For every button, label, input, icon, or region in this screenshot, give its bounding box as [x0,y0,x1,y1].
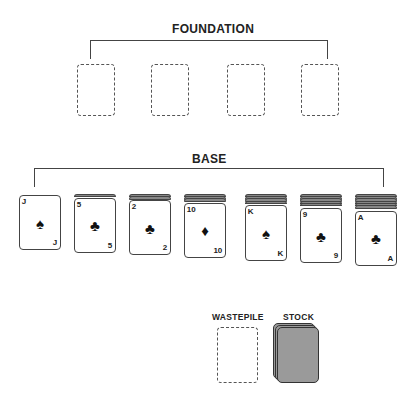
rank-bottom-right: 5 [108,241,112,250]
face-up-card[interactable]: J♠J [19,195,62,250]
rank-top-left: K [248,207,254,216]
rank-bottom-right: A [388,254,394,263]
wastepile-slot[interactable] [217,327,258,383]
rank-bottom-right: 2 [163,243,167,252]
foundation-label: FOUNDATION [172,22,254,36]
wastepile-label: WASTEPILE [212,312,264,322]
rank-top-left: A [358,213,364,222]
clubs-suit-icon: ♣ [371,230,381,247]
rank-bottom-right: J [53,238,57,247]
rank-top-left: 2 [132,202,136,211]
rank-top-left: J [22,197,26,206]
card-back [184,198,227,202]
card-back [245,201,288,205]
base-pile-6[interactable]: 9♣9 [301,195,341,262]
clubs-suit-icon: ♣ [90,217,100,234]
spades-suit-icon: ♠ [262,225,270,242]
foundation-bracket [90,40,328,59]
rank-bottom-right: K [278,249,284,258]
base-pile-1[interactable]: J♠J [20,195,60,249]
card-back [129,196,172,200]
foundation-slot-1[interactable] [77,64,115,116]
base-bracket [34,168,384,187]
face-up-card[interactable]: 9♣9 [300,208,343,263]
card-back [300,203,343,207]
rank-top-left: 10 [187,205,196,214]
rank-top-left: 9 [303,210,307,219]
face-down-cards [129,194,172,199]
base-label: BASE [192,152,227,166]
face-up-card[interactable]: 5♣5 [74,198,117,253]
stock-pile[interactable] [273,323,323,387]
foundation-slot-4[interactable] [301,64,339,116]
face-down-cards [300,194,343,206]
clubs-suit-icon: ♣ [316,227,326,244]
clubs-suit-icon: ♣ [145,219,155,236]
rank-bottom-right: 9 [334,251,338,260]
stock-label: STOCK [283,312,314,322]
face-down-cards [245,194,288,203]
face-down-cards [74,194,117,196]
stock-card-top[interactable] [277,327,319,383]
base-pile-7[interactable]: A♣A [356,195,396,265]
face-up-card[interactable]: 10♦10 [184,203,227,258]
card-back [355,205,398,209]
foundation-slot-2[interactable] [151,64,189,116]
diamonds-suit-icon: ♦ [201,222,209,239]
face-up-card[interactable]: K♠K [245,205,288,260]
face-up-card[interactable]: 2♣2 [129,200,172,255]
rank-bottom-right: 10 [213,246,222,255]
base-pile-2[interactable]: 5♣5 [75,195,115,252]
card-back [74,194,117,198]
face-down-cards [355,194,398,208]
foundation-slot-3[interactable] [227,64,265,116]
face-down-cards [184,194,227,201]
spades-suit-icon: ♠ [36,214,44,231]
face-up-card[interactable]: A♣A [355,211,398,266]
rank-top-left: 5 [77,200,81,209]
base-pile-5[interactable]: K♠K [246,195,286,259]
base-pile-4[interactable]: 10♦10 [185,195,225,257]
base-pile-3[interactable]: 2♣2 [130,195,170,254]
